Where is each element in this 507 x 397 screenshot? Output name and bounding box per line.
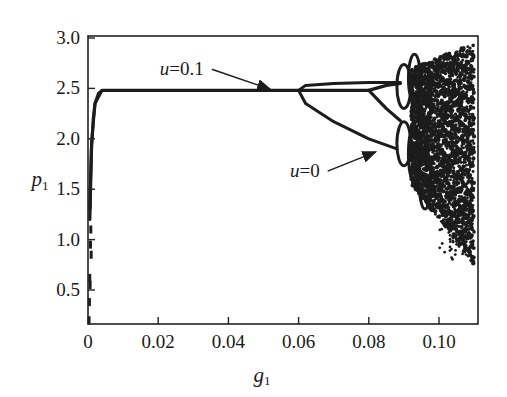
plot-area: [88, 44, 477, 325]
annotation-label: u=0: [290, 160, 320, 181]
bifurcation-chart: 00.020.040.060.080.100.51.01.52.02.53.0 …: [0, 0, 507, 397]
x-tick-label: 0.10: [422, 331, 455, 352]
x-tick-label: 0: [83, 331, 93, 352]
annotation-arrow: [212, 69, 271, 89]
x-tick-label: 0.08: [352, 331, 385, 352]
y-tick-label: 2.0: [56, 128, 80, 149]
x-tick-label: 0.04: [212, 331, 246, 352]
series-branch: [299, 90, 397, 148]
y-tick-label: 2.5: [56, 77, 80, 98]
y-tick-label: 0.5: [56, 279, 80, 300]
annotation-label: u=0.1: [160, 58, 204, 79]
y-axis-label: p1: [30, 167, 49, 193]
ticks: 00.020.040.060.080.100.51.01.52.02.53.0: [56, 27, 455, 352]
x-axis-label: g1: [254, 363, 271, 388]
series-branch: [369, 90, 401, 120]
annotation-arrow: [328, 152, 376, 171]
y-tick-label: 3.0: [56, 27, 80, 48]
series-branch: [90, 90, 299, 209]
annotations: u=0.1u=0: [160, 58, 376, 181]
series-branch: [90, 90, 369, 219]
y-tick-label: 1.0: [56, 229, 80, 250]
y-tick-label: 1.5: [56, 178, 80, 199]
x-tick-label: 0.02: [142, 331, 175, 352]
x-tick-label: 0.06: [282, 331, 315, 352]
